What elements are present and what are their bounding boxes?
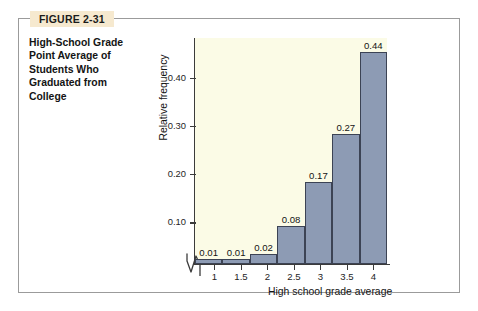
y-tick-0.10: 0.10 [190,222,196,223]
x-tick-label-2: 2 [265,271,270,282]
bar-label-2: 0.02 [254,242,273,253]
y-axis-title: Relative frequency [158,38,169,158]
bar-4[interactable] [360,52,387,264]
x-tick-label-2.5: 2.5 [287,271,300,282]
x-axis-title: High school grade average [268,286,392,297]
bar-2.5[interactable] [277,226,304,264]
bar-label-3: 0.17 [309,170,328,181]
x-tick-label-1: 1 [212,271,217,282]
x-tick-label-3.5: 3.5 [340,271,353,282]
x-tick-2.5 [294,265,295,270]
y-tick-0.40: 0.40 [190,78,196,79]
y-tick-0.30: 0.30 [190,126,196,127]
x-tick-1 [214,265,215,270]
y-tick-label-0.10: 0.10 [168,216,186,227]
y-axis-line [194,38,195,265]
bar-label-4: 0.44 [364,40,383,51]
x-tick-2 [267,265,268,270]
bar-3[interactable] [305,182,332,264]
figure-caption: High-School Grade Point Average of Stude… [29,36,147,103]
bar-label-2.5: 0.08 [282,214,301,225]
histogram-chart: 0.40 0.30 0.20 0.10 1 1.5 2 2.5 3 3.5 4 [150,30,455,300]
x-tick-label-4: 4 [371,271,376,282]
y-tick-label-0.30: 0.30 [168,120,186,131]
y-tick-0.20: 0.20 [190,174,196,175]
y-tick-label-0.40: 0.40 [168,72,186,83]
bar-label-3.5: 0.27 [337,122,356,133]
x-tick-4 [373,265,374,270]
x-axis-line [194,264,390,265]
bar-1[interactable] [195,259,222,264]
figure-number-badge: FIGURE 2-31 [30,11,114,27]
bar-label-1.5: 0.01 [227,247,246,258]
bar-label-1: 0.01 [199,247,218,258]
bar-3.5[interactable] [332,134,359,264]
bar-1.5[interactable] [222,259,249,264]
figure-page: FIGURE 2-31 High-School Grade Point Aver… [0,0,478,311]
y-tick-label-0.20: 0.20 [168,168,186,179]
x-tick-label-3: 3 [318,271,323,282]
x-tick-label-1.5: 1.5 [234,271,247,282]
bar-2[interactable] [250,254,277,264]
x-tick-1.5 [241,265,242,270]
x-tick-3.5 [347,265,348,270]
x-tick-3 [320,265,321,270]
